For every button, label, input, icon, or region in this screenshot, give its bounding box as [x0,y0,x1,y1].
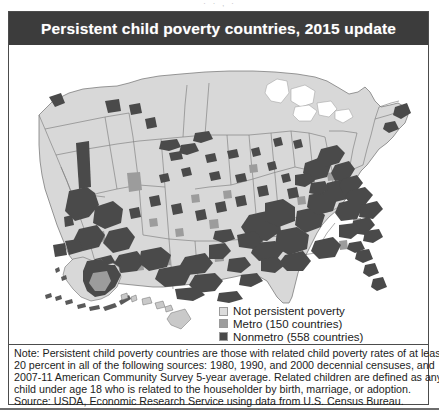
note-divider [9,344,428,345]
map-legend: Not persistent poverty Metro (150 countr… [219,305,399,343]
legend-item-nonmetro: Nonmetro (558 countries) [219,331,399,343]
legend-label-nonmetro: Nonmetro (558 countries) [233,331,363,343]
map-svg [9,45,428,342]
legend-swatch-metro-icon [219,319,228,328]
note-line-source: Source: USDA, Economic Research Service … [14,395,426,407]
note-line-3: 2007-11 American Community Survey 5-year… [14,371,426,383]
note-line-1: Note: Persistent child poverty countries… [14,347,426,359]
page-bottom-rule [0,408,439,410]
figure-title-bar: Persistent child poverty countries, 2015… [9,12,428,45]
figure-note: Note: Persistent child poverty countries… [14,347,426,407]
legend-item-not-persistent-poverty: Not persistent poverty [219,305,399,317]
figure-title: Persistent child poverty countries, 2015… [41,20,396,38]
note-line-4: child under age 18 who is related to the… [14,383,426,395]
legend-label-not-persistent: Not persistent poverty [233,305,345,317]
legend-swatch-not-persistent-icon [219,307,228,316]
scan-top-artifact: · · , · [0,0,439,7]
legend-item-metro: Metro (150 countries) [219,318,399,330]
choropleth-map [9,45,428,342]
note-line-2: 20 percent in all of the following sourc… [14,359,426,371]
figure-container: · · , · Persistent child poverty countri… [0,0,439,414]
legend-swatch-nonmetro-icon [219,332,228,341]
legend-label-metro: Metro (150 countries) [233,318,342,330]
